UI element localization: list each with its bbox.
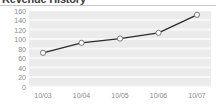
y-axis-tick-label: 160 [2, 8, 26, 15]
y-axis-tick-label: 140 [2, 17, 26, 24]
y-axis-tick-label: 80 [2, 46, 26, 53]
x-axis-tick-label: 10/06 [139, 92, 179, 100]
y-axis-tick-label: 0 [2, 84, 26, 91]
x-axis-tick-label: 10/07 [177, 92, 216, 100]
y-axis-tick-label: 40 [2, 65, 26, 72]
y-axis-tick-label: 20 [2, 74, 26, 81]
y-axis-tick-label: 60 [2, 55, 26, 62]
y-axis-tick-label: 120 [2, 27, 26, 34]
data-point-marker[interactable] [40, 50, 45, 55]
data-point-marker[interactable] [117, 36, 122, 41]
y-axis-tick-label: 100 [2, 36, 26, 43]
data-point-marker[interactable] [194, 12, 199, 17]
x-axis-tick-label: 10/04 [62, 92, 102, 100]
line-chart-svg [29, 11, 211, 87]
title-divider [0, 5, 216, 6]
revenue-history-chart-widget: Revenue History 160140120100806040200 10… [0, 0, 216, 108]
x-axis-tick-label: 10/05 [100, 92, 140, 100]
data-point-marker[interactable] [156, 30, 161, 35]
x-axis-tick-label: 10/03 [23, 92, 63, 100]
data-point-marker[interactable] [79, 40, 84, 45]
plot-area [29, 11, 211, 87]
